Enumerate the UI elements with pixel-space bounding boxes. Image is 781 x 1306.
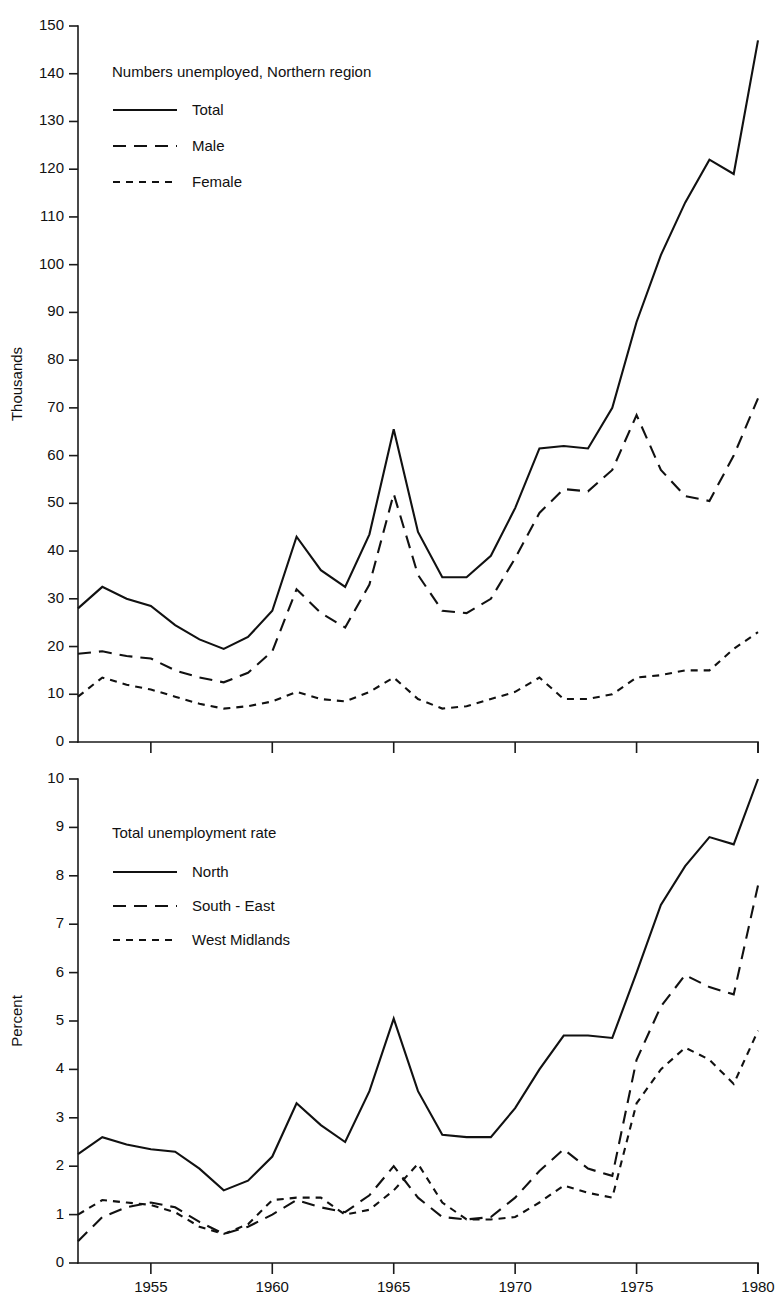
y-tick-label: 3 (56, 1108, 64, 1125)
y-tick-label: 10 (47, 684, 64, 701)
y-tick-label: 0 (56, 1253, 64, 1270)
x-tick-label: 1980 (741, 1278, 774, 1295)
y-tick-label: 130 (39, 111, 64, 128)
y-tick-label: 9 (56, 817, 64, 834)
two-panel-line-chart: 0102030405060708090100110120130140150 Th… (0, 0, 781, 1306)
y-tick-label: 30 (47, 589, 64, 606)
y-tick-label: 0 (56, 732, 64, 749)
top-legend-label-male: Male (192, 137, 225, 154)
x-tick-label: 1960 (256, 1278, 289, 1295)
x-tick-label: 1965 (377, 1278, 410, 1295)
top-panel: 0102030405060708090100110120130140150 Th… (8, 16, 758, 753)
series-line-total (78, 40, 758, 649)
top-y-ticks (69, 26, 78, 742)
bottom-x-tick-labels: 195519601965197019751980 (134, 1278, 775, 1295)
series-line-west-midlands (78, 1031, 758, 1234)
y-tick-label: 5 (56, 1011, 64, 1028)
y-tick-label: 120 (39, 159, 64, 176)
top-x-ticks (151, 742, 758, 753)
y-tick-label: 50 (47, 493, 64, 510)
y-tick-label: 10 (47, 769, 64, 786)
x-tick-label: 1955 (134, 1278, 167, 1295)
y-tick-label: 1 (56, 1205, 64, 1222)
y-tick-label: 6 (56, 963, 64, 980)
y-tick-label: 90 (47, 302, 64, 319)
bottom-legend-label-north: North (192, 863, 229, 880)
unemployment-figure: 0102030405060708090100110120130140150 Th… (0, 0, 781, 1306)
bottom-legend-label-west-midlands: West Midlands (192, 931, 290, 948)
series-line-south-east (78, 885, 758, 1241)
bottom-y-ticks (69, 779, 78, 1263)
top-y-axis-title: Thousands (8, 347, 25, 421)
top-y-tick-labels: 0102030405060708090100110120130140150 (39, 16, 64, 749)
series-line-male (78, 398, 758, 682)
x-tick-label: 1970 (498, 1278, 531, 1295)
y-tick-label: 7 (56, 914, 64, 931)
x-tick-label: 1975 (620, 1278, 653, 1295)
y-tick-label: 80 (47, 350, 64, 367)
top-legend-label-total: Total (192, 101, 224, 118)
y-tick-label: 150 (39, 16, 64, 33)
top-legend-label-female: Female (192, 173, 242, 190)
y-tick-label: 4 (56, 1059, 64, 1076)
y-tick-label: 40 (47, 541, 64, 558)
bottom-y-axis-title: Percent (8, 994, 25, 1047)
y-tick-label: 2 (56, 1156, 64, 1173)
y-tick-label: 70 (47, 398, 64, 415)
bottom-x-ticks (151, 1263, 758, 1274)
y-tick-label: 8 (56, 866, 64, 883)
bottom-legend-title: Total unemployment rate (112, 824, 276, 841)
top-legend-title: Numbers unemployed, Northern region (112, 63, 371, 80)
bottom-panel: 012345678910 195519601965197019751980 Pe… (8, 769, 775, 1295)
y-tick-label: 20 (47, 637, 64, 654)
y-tick-label: 100 (39, 255, 64, 272)
series-line-female (78, 632, 758, 708)
y-tick-label: 110 (40, 207, 64, 224)
y-tick-label: 140 (39, 64, 64, 81)
bottom-legend-label-south-east: South - East (192, 897, 275, 914)
bottom-y-tick-labels: 012345678910 (47, 769, 64, 1270)
y-tick-label: 60 (47, 446, 64, 463)
